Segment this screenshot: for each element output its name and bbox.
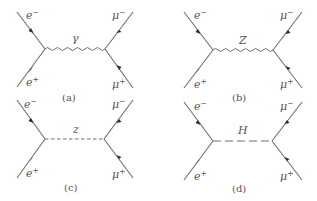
caption-c: (c) [64,182,78,193]
label-out-bottom: μ+ [280,169,293,183]
label-in-top: e− [26,8,39,22]
caption-b: (b) [232,92,246,103]
label-out-bottom: μ+ [112,167,125,181]
propagator-label: Z [238,34,247,47]
caption-d: (d) [232,183,246,194]
feynman-diagrams-figure: e− e+ μ− μ+ γ (a) e− e+ μ− μ+ Z (b) e− [0,0,317,201]
label-in-bottom: e+ [26,75,39,89]
label-out-bottom: μ+ [280,77,293,91]
label-out-top: μ− [112,8,125,22]
label-in-bottom: e+ [194,169,207,183]
propagator-label: H [237,124,248,137]
propagator-label: z [72,123,79,136]
photon-propagator [45,48,105,51]
arrow-icon [196,29,201,34]
label-out-top: μ− [280,99,293,113]
label-in-top: e− [24,97,37,111]
diagram-d: e− e+ μ− μ+ H (d) [184,99,302,194]
diagram-b: e− e+ μ− μ+ Z (b) [184,8,302,103]
propagator-label: γ [72,32,79,45]
z-boson-propagator [213,49,273,52]
arrow-icon [117,65,122,70]
label-out-top: μ− [280,8,293,22]
label-in-top: e− [194,8,207,22]
label-in-top: e− [194,99,207,113]
arrow-icon [29,118,34,123]
diagram-a: e− e+ μ− μ+ γ (a) [17,8,133,103]
arrow-icon [117,30,122,33]
label-out-bottom: μ+ [112,77,125,91]
arrow-icon [196,159,201,164]
label-in-bottom: e+ [194,77,207,91]
diagram-c: e− e+ μ− μ+ z (c) [17,97,133,193]
caption-a: (a) [62,92,76,103]
label-out-top: μ− [112,97,125,111]
label-in-bottom: e+ [26,166,39,180]
arrow-icon [285,120,290,124]
